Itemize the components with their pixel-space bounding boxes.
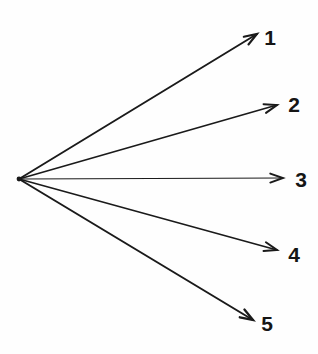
ray-arrowhead-1 bbox=[244, 34, 257, 44]
ray-line-4 bbox=[19, 179, 277, 250]
ray-label-2: 2 bbox=[288, 94, 300, 115]
ray-label-1: 1 bbox=[264, 27, 276, 48]
ray-label-4: 4 bbox=[288, 244, 300, 265]
ray-line-1 bbox=[19, 34, 257, 179]
ray-line-3 bbox=[19, 178, 283, 179]
ray-group-1 bbox=[19, 34, 257, 179]
ray-arrowhead-5 bbox=[240, 310, 253, 320]
ray-line-5 bbox=[19, 179, 253, 320]
ray-group-4 bbox=[19, 179, 277, 251]
ray-label-5: 5 bbox=[261, 313, 273, 334]
ray-fan-diagram: 1 2 3 4 5 bbox=[0, 0, 318, 354]
ray-group-3 bbox=[19, 174, 283, 183]
ray-group-5 bbox=[19, 179, 253, 320]
ray-group-2 bbox=[19, 104, 277, 179]
ray-label-3: 3 bbox=[295, 169, 307, 190]
ray-line-2 bbox=[19, 105, 277, 179]
origin-vertex bbox=[17, 177, 22, 182]
ray-fan-svg bbox=[0, 0, 318, 354]
